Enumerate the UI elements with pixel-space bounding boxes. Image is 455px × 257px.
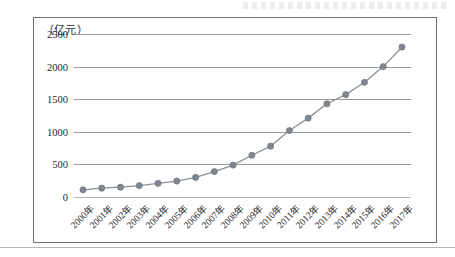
data-point-2013年 [324, 101, 330, 107]
y-tick-label-0: 0 [63, 192, 68, 203]
y-tick-label-2500: 2500 [47, 29, 68, 40]
data-point-2010年 [268, 143, 274, 149]
data-point-2017年 [399, 44, 405, 50]
data-point-2006年 [192, 174, 198, 180]
data-point-2004年 [155, 180, 161, 186]
scan-artifact-top-strip [243, 2, 448, 9]
y-tick-label-1000: 1000 [47, 126, 68, 137]
line-series-chart [74, 34, 411, 197]
plot-area: 05001000150020002500 2000年2001年2002年2003… [74, 34, 411, 197]
series-line [83, 47, 402, 190]
data-point-2012年 [305, 115, 311, 121]
chart-figure-frame: （亿元） 05001000150020002500 2000年2001年2002… [33, 17, 437, 243]
data-point-2005年 [174, 178, 180, 184]
data-point-2007年 [211, 168, 217, 174]
data-point-2016年 [380, 64, 386, 70]
y-tick-label-1500: 1500 [47, 94, 68, 105]
gridline-0 [74, 197, 411, 198]
data-point-2002年 [117, 184, 123, 190]
data-point-2015年 [361, 79, 367, 85]
data-point-2001年 [99, 185, 105, 191]
data-point-2009年 [249, 152, 255, 158]
y-tick-label-2000: 2000 [47, 61, 68, 72]
data-point-2003年 [136, 182, 142, 188]
page-rule [0, 247, 455, 248]
data-point-2011年 [286, 127, 292, 133]
data-point-2008年 [230, 162, 236, 168]
data-point-2000年 [80, 187, 86, 193]
y-tick-label-500: 500 [52, 159, 68, 170]
data-point-2014年 [343, 92, 349, 98]
series-markers-group [80, 44, 405, 193]
